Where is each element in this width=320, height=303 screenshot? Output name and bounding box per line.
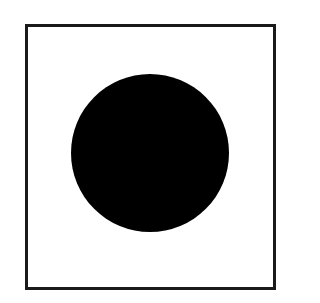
black-circle [71,74,229,232]
